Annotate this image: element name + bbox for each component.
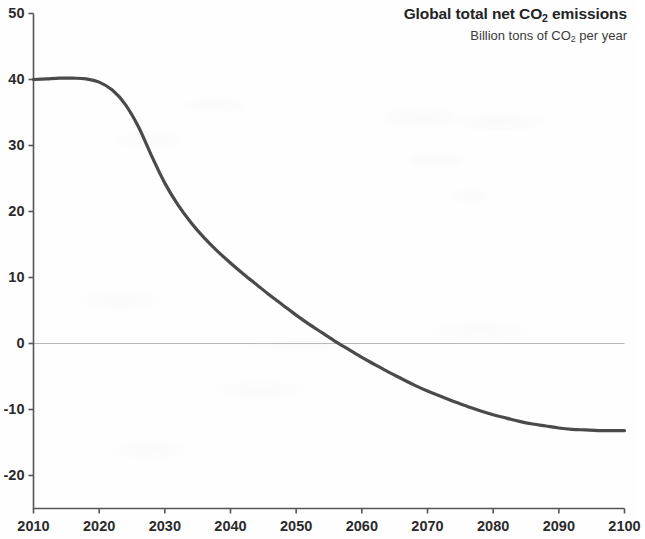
axis-lines: [34, 14, 625, 509]
axis-tickmarks: [29, 14, 625, 514]
data-series-line: [34, 78, 625, 431]
